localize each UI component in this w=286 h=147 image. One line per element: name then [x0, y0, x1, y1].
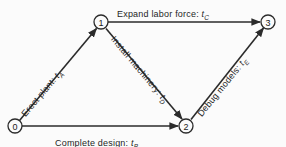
node-2-label: 2	[183, 122, 188, 132]
node-0-label: 0	[12, 122, 17, 132]
node-0[interactable]: 0	[8, 119, 22, 133]
node-1-label: 1	[98, 18, 103, 28]
node-2[interactable]: 2	[179, 119, 193, 133]
edge-label-complete-design-sub: B	[134, 143, 139, 147]
edge-label-complete-design-activity: Complete design	[55, 138, 126, 147]
node-3-label: 3	[265, 18, 270, 28]
edge-label-expand-labor-force-separator: :	[196, 9, 199, 19]
node-3[interactable]: 3	[261, 15, 275, 29]
edge-label-complete-design-separator: :	[126, 138, 129, 147]
node-1[interactable]: 1	[94, 15, 108, 29]
edge-label-expand-labor-force-sub: C	[204, 14, 209, 21]
edge-label-expand-labor-force: Expand labor force: tC	[117, 9, 209, 21]
diagram-canvas: 0 1 2 3 Erect plant: tA Complete design:…	[0, 0, 286, 147]
edge-label-complete-design: Complete design: tB	[55, 138, 138, 147]
edge-label-expand-labor-force-activity: Expand labor force	[117, 9, 196, 19]
